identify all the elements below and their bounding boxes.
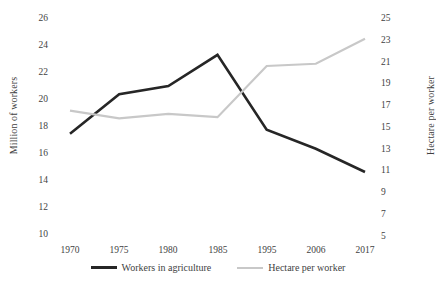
series-line-hectare-per-worker	[70, 39, 365, 119]
series-line-workers-in-agriculture	[70, 55, 365, 172]
legend-label: Hectare per worker	[268, 262, 345, 273]
legend-label: Workers in agriculture	[122, 262, 212, 273]
legend-swatch-icon	[91, 266, 117, 269]
plot-svg	[0, 0, 436, 293]
chart-legend: Workers in agriculture Hectare per worke…	[0, 262, 436, 273]
legend-item-workers-in-agriculture: Workers in agriculture	[91, 262, 212, 273]
legend-swatch-icon	[237, 267, 263, 269]
legend-item-hectare-per-worker: Hectare per worker	[237, 262, 345, 273]
plot-area	[0, 0, 436, 293]
line-chart: Million of workers Hectare per worker 26…	[0, 0, 436, 293]
